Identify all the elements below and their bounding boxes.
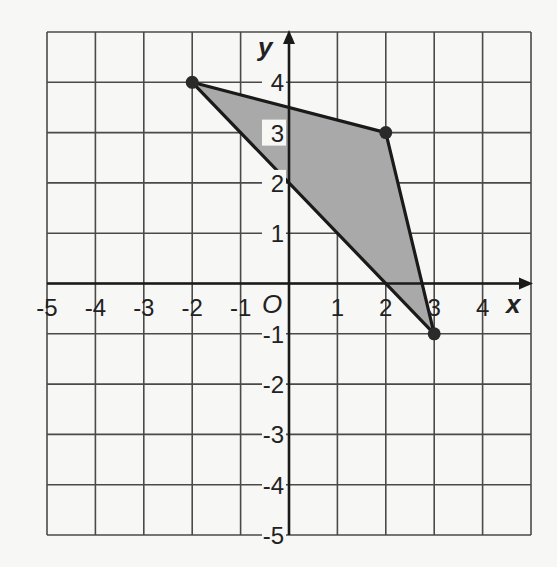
x-tick-label: 1 — [331, 294, 344, 321]
origin-label: O — [262, 289, 282, 319]
x-tick-label: 4 — [476, 294, 489, 321]
x-tick-label: -3 — [133, 294, 154, 321]
y-tick-label: -5 — [263, 522, 284, 549]
y-tick-label: -1 — [263, 321, 284, 348]
x-axis-label: x — [504, 289, 522, 319]
y-tick-label: 4 — [271, 69, 284, 96]
y-tick-label: -4 — [263, 472, 284, 499]
y-tick-label: 2 — [271, 170, 284, 197]
x-tick-label: -4 — [85, 294, 106, 321]
x-tick-label: -2 — [182, 294, 203, 321]
vertex-point — [428, 327, 441, 340]
x-tick-label: 3 — [428, 294, 441, 321]
triangle-polygon — [192, 82, 434, 333]
y-tick-label: -3 — [263, 421, 284, 448]
x-tick-label: 2 — [379, 294, 392, 321]
x-tick-label: -1 — [230, 294, 251, 321]
vertex-point — [186, 76, 199, 89]
shaded-triangle — [192, 82, 434, 333]
vertex-point — [379, 126, 392, 139]
y-tick-label: -2 — [263, 371, 284, 398]
y-axis-label: y — [256, 32, 274, 62]
axes — [47, 30, 533, 535]
coordinate-plane: -5-4-3-2-112344321-1-2-3-4-5 x y O — [0, 0, 557, 567]
x-tick-label: -5 — [36, 294, 57, 321]
y-tick-label: 1 — [271, 220, 284, 247]
y-tick-label: 3 — [271, 120, 284, 147]
